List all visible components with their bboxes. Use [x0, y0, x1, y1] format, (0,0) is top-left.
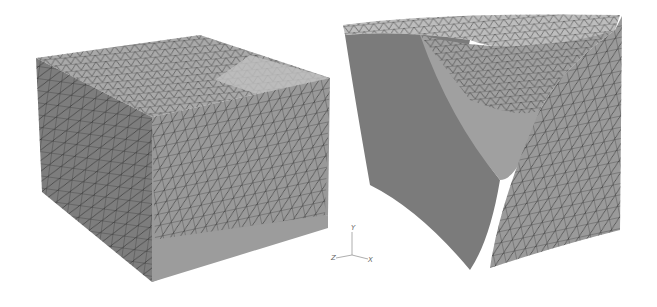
axis-label-x: X: [367, 256, 373, 264]
axis-label-z: Z: [330, 254, 336, 262]
deformed-cube: [343, 14, 622, 270]
figure-canvas: Y Z X: [0, 0, 657, 307]
axis-triad: Y Z X: [330, 224, 373, 264]
axis-label-y: Y: [351, 224, 356, 232]
undeformed-cube: [36, 35, 330, 282]
